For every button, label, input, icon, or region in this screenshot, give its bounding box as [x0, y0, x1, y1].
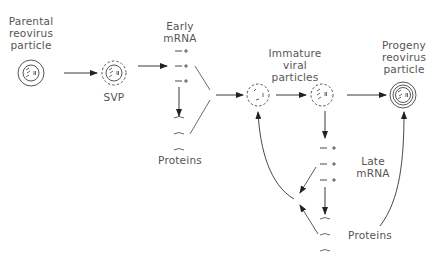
svp-particle-icon: [102, 61, 126, 85]
late-protein-symbols: [320, 218, 330, 252]
late-mrna-plus-signs: [332, 146, 336, 182]
converge-line-mrna: [195, 66, 210, 90]
label-late-mrna: Late mRNA: [348, 155, 398, 179]
converge-line-proteins: [190, 100, 210, 134]
early-protein-symbols: [174, 117, 184, 151]
label-parental-particle: Parental reovirus particle: [2, 15, 60, 51]
label-late-proteins: Proteins: [340, 229, 400, 241]
immature-particle-2-icon: [311, 84, 333, 106]
label-immature-particles: Immature viral particles: [260, 47, 330, 83]
feedback-curve-to-immature: [258, 112, 294, 199]
arrow-late-mrna-to-junction: [300, 167, 316, 193]
parental-particle-icon: [18, 60, 44, 86]
label-early-proteins: Proteins: [152, 154, 208, 166]
late-mrna-strands: [320, 148, 327, 180]
immature-particle-1-icon: [247, 84, 269, 106]
label-svp: SVP: [96, 91, 132, 103]
progeny-particle-icon: [390, 82, 416, 108]
label-progeny-particle: Progeny reovirus particle: [375, 39, 433, 75]
arrow-late-proteins-to-junction: [300, 205, 318, 234]
early-mrna-plus-signs: [184, 49, 188, 83]
early-mrna-strands: [175, 51, 182, 81]
label-early-mrna: Early mRNA: [156, 20, 204, 44]
